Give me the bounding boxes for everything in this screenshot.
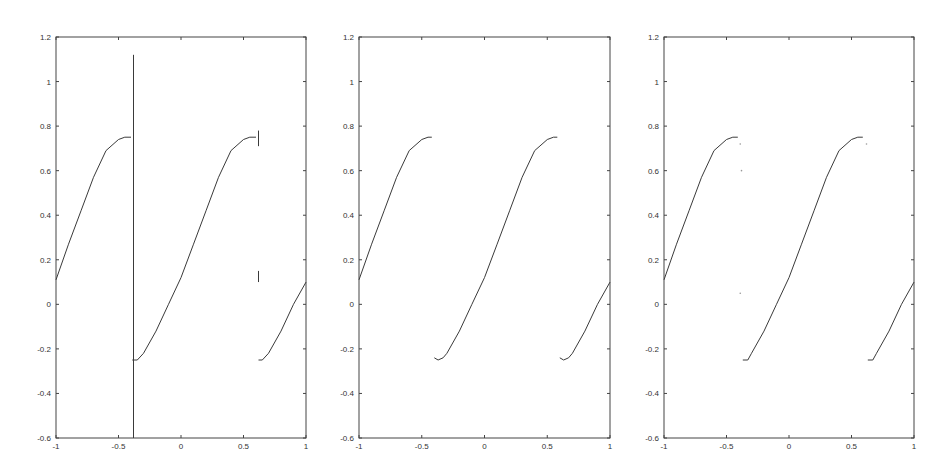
x-tick-label: 0 — [787, 442, 792, 451]
y-tick-label: -0.2 — [340, 345, 354, 354]
x-tick-label: -1 — [52, 442, 60, 451]
x-tick-label: 1 — [608, 442, 613, 451]
x-tick-label: -0.5 — [112, 442, 126, 451]
curve-segment-2 — [743, 137, 863, 360]
y-tick-label: 0 — [655, 300, 660, 309]
x-tick-label: 0.5 — [238, 442, 250, 451]
y-tick-label: 0.6 — [648, 167, 660, 176]
y-tick-label: 1.2 — [648, 33, 660, 42]
curve-segment-1 — [359, 137, 432, 280]
plot-panel-left: -0.6-0.4-0.200.20.40.60.811.2-1-0.500.51 — [37, 33, 309, 451]
y-tick-label: 0.4 — [648, 211, 660, 220]
y-tick-label: 0.2 — [40, 256, 52, 265]
chart-canvas: -0.6-0.4-0.200.20.40.60.811.2-1-0.500.51… — [0, 0, 947, 473]
axes-frame — [56, 37, 306, 438]
curve-segment-2 — [132, 137, 256, 360]
y-tick-label: 0 — [350, 300, 355, 309]
artifact-dot — [739, 143, 741, 145]
y-tick-label: -0.6 — [340, 434, 354, 443]
curve-segment-3 — [868, 282, 914, 360]
y-tick-label: -0.6 — [645, 434, 659, 443]
x-tick-label: 0.5 — [846, 442, 858, 451]
plot-panel-middle: -0.6-0.4-0.200.20.40.60.811.2-1-0.500.51 — [340, 33, 613, 451]
y-tick-label: -0.2 — [37, 345, 51, 354]
curve-segment-1 — [56, 137, 131, 280]
artifact-dot — [739, 292, 741, 294]
x-tick-label: 1 — [912, 442, 917, 451]
y-tick-label: -0.4 — [340, 389, 354, 398]
y-tick-label: 0.6 — [343, 167, 355, 176]
curve-segment-3 — [560, 282, 610, 360]
y-tick-label: 0.4 — [343, 211, 355, 220]
axes-frame — [359, 37, 610, 438]
y-tick-label: -0.2 — [645, 345, 659, 354]
curve-segment-3 — [259, 282, 307, 360]
x-tick-label: 1 — [304, 442, 309, 451]
y-tick-label: 1.2 — [40, 33, 52, 42]
plot-panel-right: -0.6-0.4-0.200.20.40.60.811.2-1-0.500.51 — [645, 33, 917, 451]
x-tick-label: -1 — [660, 442, 668, 451]
x-tick-label: -0.5 — [415, 442, 429, 451]
x-tick-label: -0.5 — [720, 442, 734, 451]
y-tick-label: 0.8 — [40, 122, 52, 131]
y-tick-label: 1 — [350, 78, 355, 87]
y-tick-label: 1 — [47, 78, 52, 87]
x-tick-label: 0 — [179, 442, 184, 451]
y-tick-label: 1 — [655, 78, 660, 87]
curve-segment-2 — [434, 137, 557, 360]
artifact-dot — [741, 170, 743, 172]
y-tick-label: 0.8 — [343, 122, 355, 131]
x-tick-label: -1 — [355, 442, 363, 451]
y-tick-label: 0 — [47, 300, 52, 309]
y-tick-label: -0.6 — [37, 434, 51, 443]
y-tick-label: -0.4 — [645, 389, 659, 398]
curve-segment-1 — [664, 137, 738, 280]
axes-frame — [664, 37, 914, 438]
y-tick-label: -0.4 — [37, 389, 51, 398]
x-tick-label: 0.5 — [542, 442, 554, 451]
y-tick-label: 0.2 — [343, 256, 355, 265]
y-tick-label: 1.2 — [343, 33, 355, 42]
y-tick-label: 0.4 — [40, 211, 52, 220]
y-tick-label: 0.2 — [648, 256, 660, 265]
y-tick-label: 0.6 — [40, 167, 52, 176]
y-tick-label: 0.8 — [648, 122, 660, 131]
artifact-dot — [866, 143, 868, 145]
x-tick-label: 0 — [482, 442, 487, 451]
